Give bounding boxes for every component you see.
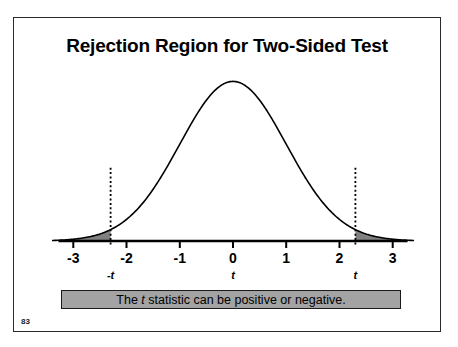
axis-tick-label--1: -1	[174, 250, 187, 266]
bell-curve	[52, 81, 414, 240]
slide-frame: Rejection Region for Two-Sided Test -3-2…	[13, 17, 441, 332]
caption-text-before: The	[116, 293, 141, 307]
axis-tick-labels: -3-2-10123	[67, 250, 397, 266]
center-label-t: t	[231, 269, 236, 281]
right-rejection-region-shape	[355, 230, 414, 241]
left-rejection-region-shape	[52, 230, 111, 241]
normal-distribution-chart: -3-2-10123 -ttt	[14, 18, 442, 333]
critical-value-markers	[111, 168, 356, 247]
axis-tick-label--3: -3	[67, 250, 80, 266]
page-number: 83	[21, 317, 30, 326]
axis-tick-label-0: 0	[229, 250, 237, 266]
caption-box: The t statistic can be positive or negat…	[61, 290, 401, 309]
critical-label-negative-t: -t	[107, 269, 116, 281]
axis-tick-label-2: 2	[336, 250, 344, 266]
axis-tick-label-1: 1	[282, 250, 290, 266]
caption-text: The t statistic can be positive or negat…	[116, 293, 345, 307]
caption-text-after: statistic can be positive or negative.	[145, 293, 346, 307]
critical-value-labels: -ttt	[107, 269, 359, 281]
critical-label-positive-t: t	[354, 269, 359, 281]
axis-tick-label--2: -2	[120, 250, 133, 266]
axis-tick-label-3: 3	[389, 250, 397, 266]
